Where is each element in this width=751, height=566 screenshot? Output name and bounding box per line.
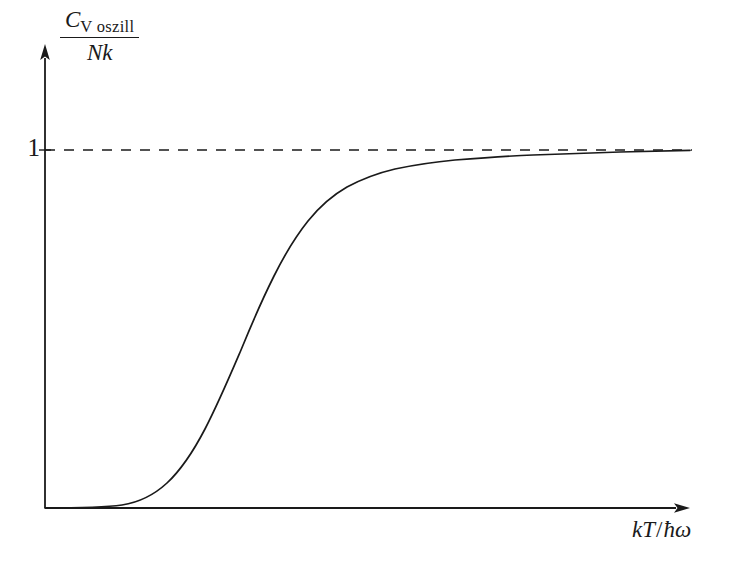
x-axis-label-denominator: ħω [663, 517, 691, 542]
y-axis-label-symbol: C [65, 7, 80, 32]
y-axis-label: CV oszill Nk [60, 8, 139, 64]
figure-container: CV oszill Nk 1 kT/ħω [0, 0, 751, 566]
x-axis [45, 503, 690, 513]
heat-capacity-curve [45, 150, 690, 508]
y-axis-label-numerator: CV oszill [60, 8, 139, 38]
x-axis-label-numerator: kT [632, 517, 655, 542]
y-axis-label-denominator: Nk [60, 38, 139, 64]
y-axis [40, 44, 50, 508]
y-tick-label-1: 1 [18, 135, 40, 160]
y-axis-label-subscript: V oszill [80, 17, 134, 36]
x-axis-label: kT/ħω [632, 518, 691, 541]
plot-canvas [0, 0, 751, 566]
x-axis-arrowhead-icon [674, 503, 690, 513]
y-axis-arrowhead-icon [40, 44, 50, 60]
